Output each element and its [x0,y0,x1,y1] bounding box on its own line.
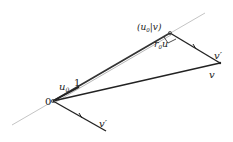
v-point [219,62,221,64]
projection-label: (u0|v) [137,22,162,33]
projection-diagram: 0 1 u0 (u0|v) r0u v′ v v′ [0,0,233,142]
u0-label: u0 [59,81,69,93]
v-prime-top-label: v′ [214,50,223,61]
v-label: v [209,69,215,80]
r0u-label: r0u [154,38,168,50]
origin-label: 0 [45,96,51,107]
v-prime-bottom-label: v′ [99,118,108,129]
unit-label: 1 [74,77,80,88]
